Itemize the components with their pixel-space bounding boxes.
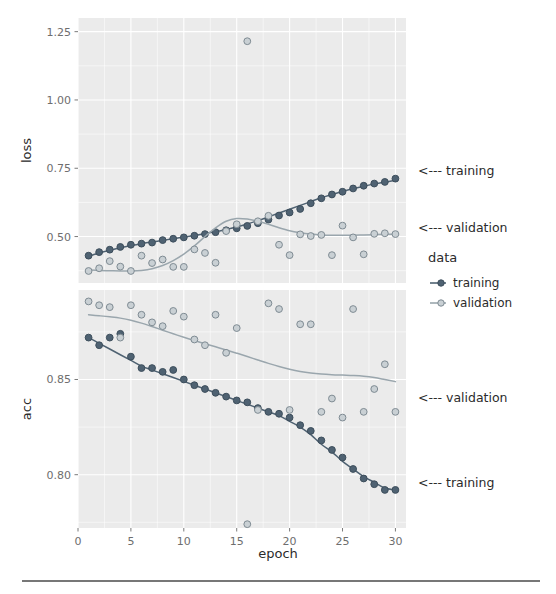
data-point [286,252,293,259]
legend-marker-validation [438,300,444,306]
data-point [307,321,314,328]
data-point [191,382,198,389]
data-point [329,395,336,402]
plot-canvas: 0.500.751.001.250.800.85051015202530epoc… [0,0,556,594]
data-point [350,234,357,241]
data-point [318,195,325,202]
legend-label-training: training [453,276,500,290]
data-point [149,319,156,326]
data-point [265,408,272,415]
axis-loss-y: 0.500.751.001.25 [47,26,79,244]
annotation-acc-validation: <--- validation [418,390,508,405]
data-point [286,209,293,216]
legend-marker-training [438,280,444,286]
panel-loss [78,18,406,283]
data-point [276,306,283,313]
data-point [85,252,92,259]
data-point [350,466,357,473]
data-point [318,408,325,415]
data-point [392,408,399,415]
data-point [276,241,283,248]
data-point [191,336,198,343]
legend-title: data [428,250,457,265]
axis-x: 051015202530 [75,528,403,548]
data-point [117,244,124,251]
data-point [149,239,156,246]
data-point [286,407,293,414]
data-point [297,422,304,429]
data-point [96,342,103,349]
data-point [265,300,272,307]
data-point [318,232,325,239]
data-point [170,308,177,315]
data-point [223,228,230,235]
data-point [286,414,293,421]
y-axis-title-acc: acc [19,398,34,420]
data-point [381,361,388,368]
data-point [360,408,367,415]
data-point [106,334,113,341]
data-point [212,311,219,318]
data-point [180,234,187,241]
data-point [117,263,124,270]
data-point [233,397,240,404]
legend-item-training[interactable]: training [430,276,500,290]
data-point [127,302,134,309]
x-tick-label: 30 [388,535,402,548]
data-point [233,221,240,228]
annotations: <--- training<--- validation<--- validat… [418,163,508,490]
data-point [339,188,346,195]
x-axis-title: epoch [258,546,298,561]
data-point [392,175,399,182]
data-point [223,393,230,400]
data-point [371,481,378,488]
data-point [159,256,166,263]
data-point [297,206,304,213]
data-point [191,232,198,239]
y-tick-label-loss: 1.25 [47,26,72,39]
data-point [371,180,378,187]
data-point [212,259,219,266]
data-point [170,367,177,374]
data-point [371,230,378,237]
data-point [138,311,145,318]
data-point [180,263,187,270]
data-point [329,447,336,454]
training-history-figure: 0.500.751.001.250.800.85051015202530epoc… [0,0,556,594]
legend-label-validation: validation [453,296,512,310]
y-tick-label-loss: 0.50 [47,231,72,244]
data-point [381,487,388,494]
axis-acc-y: 0.800.85 [47,373,79,481]
data-point [381,179,388,186]
data-point [244,38,251,45]
data-point [159,237,166,244]
panel-acc [78,290,406,528]
data-point [96,249,103,256]
data-point [254,407,261,414]
data-point [244,223,251,230]
data-point [180,313,187,320]
legend: datatrainingvalidation [428,250,512,310]
data-point [360,182,367,189]
data-point [202,342,209,349]
data-point [350,306,357,313]
data-point [339,414,346,421]
annotation-acc-training: <--- training [418,475,494,490]
x-tick-label: 0 [75,535,82,548]
data-point [85,298,92,305]
data-point [297,321,304,328]
data-point [360,475,367,482]
data-point [180,376,187,383]
data-point [381,230,388,237]
data-point [233,325,240,332]
data-point [159,368,166,375]
legend-item-validation[interactable]: validation [430,296,512,310]
data-point [127,241,134,248]
data-point [276,410,283,417]
panel-background-acc [78,290,406,528]
panel-background-loss [78,18,406,283]
data-point [149,365,156,372]
y-tick-label-acc: 0.85 [47,373,72,386]
data-point [106,258,113,265]
data-point [170,263,177,270]
